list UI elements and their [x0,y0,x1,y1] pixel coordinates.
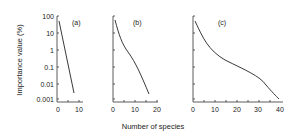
x-tick-label: 0 [111,106,115,113]
x-tick-label: 30 [254,106,262,113]
y-tick-labels: 100 10 1 0.1 0.01 0.001 [36,13,54,103]
x-tick-label: 20 [233,106,241,113]
panel-c-label: (c) [218,19,226,27]
x-tick-label: 0 [56,106,60,113]
y-tick-label: 1 [50,47,54,54]
x-axis-title: Number of species [122,122,185,131]
panel-c [193,16,283,102]
panel-a-curve [59,21,74,93]
x-tick-label: 10 [75,106,83,113]
panel-b-label: (b) [133,19,142,27]
x-tick-label: 0 [191,106,195,113]
y-tick-label: 10 [46,30,54,37]
x-tick-label: 10 [131,106,139,113]
panel-a-label: (a) [72,19,81,27]
y-axis-title: Importance value (%) [15,24,24,96]
x-tick-label: 10 [211,106,219,113]
panel-b [113,16,158,102]
y-tick-label: 0.01 [40,81,54,88]
panel-b-curve [115,20,149,94]
panel-a [57,16,83,102]
y-tick-label: 0.1 [44,64,54,71]
panel-c-curve [195,21,279,99]
x-tick-label: 20 [153,106,161,113]
y-tick-label: 100 [42,13,54,20]
figure: Importance value (%) 100 10 1 0.1 0.01 0… [0,0,297,136]
y-tick-label: 0.001 [36,96,54,103]
x-tick-label: 40 [276,106,284,113]
panel-b-axes [113,16,158,102]
